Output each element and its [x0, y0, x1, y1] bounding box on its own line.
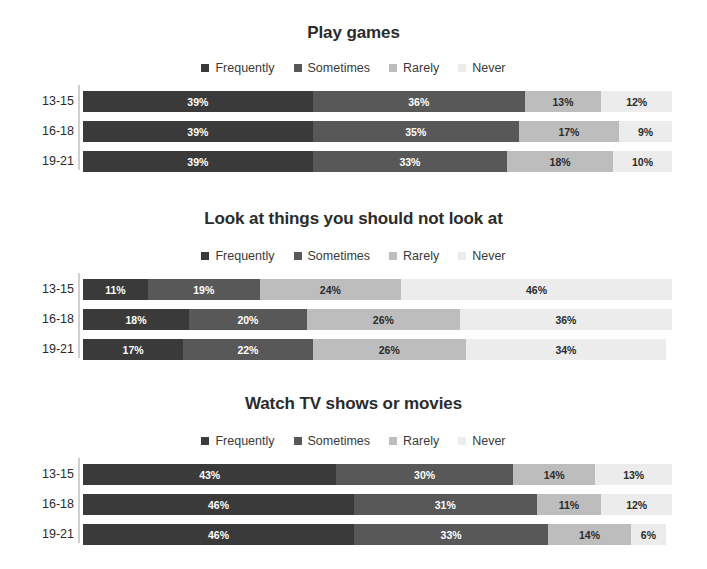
bar-row: 16-1818%20%26%36% — [78, 309, 672, 330]
bar-row: 16-1839%35%17%9% — [78, 121, 672, 142]
bar-segment-sometimes[interactable]: 22% — [183, 339, 313, 360]
bar-segment-frequently[interactable]: 46% — [83, 524, 354, 545]
legend-swatch-icon — [458, 64, 466, 72]
legend-swatch-icon — [389, 437, 397, 445]
bar-segment-rarely[interactable]: 24% — [260, 279, 401, 300]
chart-title: Look at things you should not look at — [0, 200, 707, 227]
bar-segment-rarely[interactable]: 14% — [548, 524, 630, 545]
bar-segment-never[interactable]: 12% — [601, 494, 672, 515]
bar-segment-sometimes[interactable]: 33% — [354, 524, 548, 545]
stacked-bar: 17%22%26%34% — [83, 339, 672, 360]
bar-segment-never[interactable]: 36% — [460, 309, 672, 330]
chart-panel-watch-tv: Watch TV shows or movies FrequentlySomet… — [0, 385, 707, 569]
category-label: 16-18 — [40, 494, 74, 515]
chart-plot-area: 13-1543%30%14%13%16-1846%31%11%12%19-214… — [40, 448, 672, 545]
bar-segment-never[interactable]: 13% — [595, 464, 672, 485]
chart-legend: FrequentlySometimesRarelyNever — [0, 412, 707, 448]
bar-segment-never[interactable]: 12% — [601, 91, 672, 112]
chart-page: Play games FrequentlySometimesRarelyNeve… — [0, 0, 707, 569]
legend-swatch-icon — [458, 437, 466, 445]
bar-segment-never[interactable]: 6% — [631, 524, 666, 545]
legend-item-frequently[interactable]: Frequently — [201, 249, 274, 263]
bar-row: 19-2117%22%26%34% — [78, 339, 672, 360]
legend-item-frequently[interactable]: Frequently — [201, 434, 274, 448]
legend-swatch-icon — [294, 64, 302, 72]
bar-segment-sometimes[interactable]: 35% — [313, 121, 519, 142]
bar-rows: 13-1539%36%13%12%16-1839%35%17%9%19-2139… — [78, 91, 672, 172]
stacked-bar: 11%19%24%46% — [83, 279, 672, 300]
bar-segment-sometimes[interactable]: 36% — [313, 91, 525, 112]
bar-segment-frequently[interactable]: 11% — [83, 279, 148, 300]
legend-item-label: Rarely — [403, 61, 439, 75]
bar-segment-sometimes[interactable]: 33% — [313, 151, 507, 172]
stacked-bar: 39%33%18%10% — [83, 151, 672, 172]
category-label: 19-21 — [40, 339, 74, 360]
stacked-bar: 39%35%17%9% — [83, 121, 672, 142]
bar-row: 19-2139%33%18%10% — [78, 151, 672, 172]
bar-segment-never[interactable]: 10% — [613, 151, 672, 172]
chart-plot-area: 13-1539%36%13%12%16-1839%35%17%9%19-2139… — [40, 75, 672, 172]
bar-segment-rarely[interactable]: 14% — [513, 464, 595, 485]
legend-item-never[interactable]: Never — [458, 249, 505, 263]
legend-item-rarely[interactable]: Rarely — [389, 249, 439, 263]
category-label: 16-18 — [40, 309, 74, 330]
legend-item-sometimes[interactable]: Sometimes — [294, 434, 371, 448]
bar-row: 13-1511%19%24%46% — [78, 279, 672, 300]
legend-swatch-icon — [201, 437, 209, 445]
legend-item-sometimes[interactable]: Sometimes — [294, 249, 371, 263]
bar-segment-never[interactable]: 34% — [466, 339, 666, 360]
legend-item-label: Never — [472, 61, 505, 75]
stacked-bar: 46%33%14%6% — [83, 524, 672, 545]
legend-item-never[interactable]: Never — [458, 61, 505, 75]
bar-segment-sometimes[interactable]: 31% — [354, 494, 537, 515]
stacked-bar: 18%20%26%36% — [83, 309, 672, 330]
bar-segment-sometimes[interactable]: 30% — [336, 464, 513, 485]
bar-segment-rarely[interactable]: 18% — [507, 151, 613, 172]
bar-segment-frequently[interactable]: 46% — [83, 494, 354, 515]
bar-segment-rarely[interactable]: 11% — [537, 494, 602, 515]
legend-item-label: Frequently — [215, 434, 274, 448]
bar-row: 16-1846%31%11%12% — [78, 494, 672, 515]
legend-item-frequently[interactable]: Frequently — [201, 61, 274, 75]
bar-segment-frequently[interactable]: 17% — [83, 339, 183, 360]
bar-row: 19-2146%33%14%6% — [78, 524, 672, 545]
bar-segment-rarely[interactable]: 26% — [313, 339, 466, 360]
bar-segment-never[interactable]: 46% — [401, 279, 672, 300]
bar-rows: 13-1543%30%14%13%16-1846%31%11%12%19-214… — [78, 464, 672, 545]
legend-swatch-icon — [389, 64, 397, 72]
bar-segment-sometimes[interactable]: 20% — [189, 309, 307, 330]
category-label: 13-15 — [40, 279, 74, 300]
legend-item-label: Never — [472, 249, 505, 263]
bar-segment-frequently[interactable]: 39% — [83, 91, 313, 112]
bar-segment-never[interactable]: 9% — [619, 121, 672, 142]
legend-item-rarely[interactable]: Rarely — [389, 61, 439, 75]
legend-swatch-icon — [201, 64, 209, 72]
legend-swatch-icon — [201, 252, 209, 260]
legend-item-label: Rarely — [403, 434, 439, 448]
chart-legend: FrequentlySometimesRarelyNever — [0, 227, 707, 263]
bar-segment-frequently[interactable]: 39% — [83, 121, 313, 142]
category-label: 19-21 — [40, 151, 74, 172]
bar-segment-frequently[interactable]: 18% — [83, 309, 189, 330]
legend-item-label: Sometimes — [308, 61, 371, 75]
legend-item-rarely[interactable]: Rarely — [389, 434, 439, 448]
legend-item-label: Rarely — [403, 249, 439, 263]
legend-item-label: Never — [472, 434, 505, 448]
bar-segment-rarely[interactable]: 17% — [519, 121, 619, 142]
legend-item-never[interactable]: Never — [458, 434, 505, 448]
bar-row: 13-1543%30%14%13% — [78, 464, 672, 485]
bar-segment-frequently[interactable]: 43% — [83, 464, 336, 485]
legend-swatch-icon — [458, 252, 466, 260]
legend-item-sometimes[interactable]: Sometimes — [294, 61, 371, 75]
category-label: 19-21 — [40, 524, 74, 545]
bar-segment-rarely[interactable]: 26% — [307, 309, 460, 330]
chart-panel-play-games: Play games FrequentlySometimesRarelyNeve… — [0, 0, 707, 200]
chart-title: Play games — [0, 0, 707, 41]
legend-item-label: Frequently — [215, 249, 274, 263]
bar-segment-frequently[interactable]: 39% — [83, 151, 313, 172]
category-label: 13-15 — [40, 464, 74, 485]
chart-title: Watch TV shows or movies — [0, 385, 707, 412]
legend-item-label: Frequently — [215, 61, 274, 75]
bar-segment-sometimes[interactable]: 19% — [148, 279, 260, 300]
bar-segment-rarely[interactable]: 13% — [525, 91, 602, 112]
